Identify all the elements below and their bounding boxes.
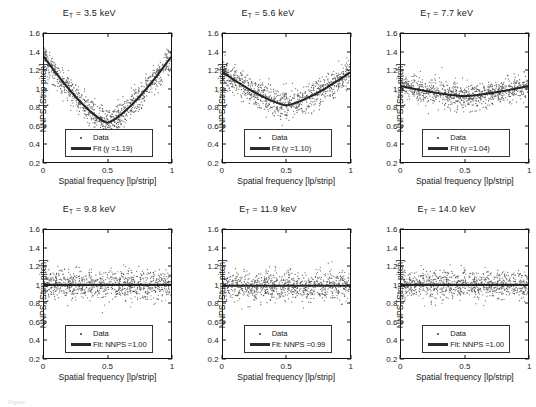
y-axis-tick-label: 1.4: [386, 243, 397, 252]
x-axis-tick-mark-top: [350, 33, 351, 37]
fit-line-icon: [71, 343, 91, 345]
y-axis-tick-mark-right: [347, 70, 351, 71]
panel-title-energy: = 5.6 keV: [254, 8, 294, 18]
y-axis-tick-mark: [400, 359, 404, 360]
y-axis-tick-mark-right: [347, 51, 351, 52]
legend-data-label: Data: [93, 133, 109, 142]
legend-data-label: Data: [93, 329, 109, 338]
y-axis-tick-label: 1.4: [208, 243, 219, 252]
y-axis-tick-mark-right: [347, 125, 351, 126]
legend-row-fit: Fit (γ =1.10): [248, 143, 328, 154]
y-axis-tick-mark-right: [168, 303, 172, 304]
legend-line-icon: [426, 147, 450, 149]
y-axis-tick-mark: [43, 340, 47, 341]
x-axis-tick-label: 1: [348, 362, 352, 371]
y-axis-tick-mark: [400, 229, 404, 230]
panel-title: ET = 7.7 keV: [357, 8, 536, 19]
y-axis-tick-mark-right: [168, 144, 172, 145]
y-axis-tick-mark-right: [347, 247, 351, 248]
fit-line-icon: [71, 147, 91, 149]
x-axis-tick-mark: [172, 159, 173, 163]
y-axis-tick-label: 1.6: [386, 29, 397, 38]
y-axis-tick-label: 1.4: [386, 47, 397, 56]
x-axis-tick-label: 0: [398, 362, 402, 371]
x-axis-tick-mark-top: [107, 229, 108, 233]
x-axis-tick-mark: [43, 159, 44, 163]
y-axis-tick-mark: [222, 247, 226, 248]
legend-row-fit: Fit: NNPS =0.99: [248, 339, 328, 350]
x-axis-tick-mark: [221, 159, 222, 163]
x-axis-tick-mark: [529, 355, 530, 359]
y-axis-tick-mark-right: [525, 88, 529, 89]
panel-title-subscript: T: [245, 208, 249, 215]
y-axis-tick-mark: [43, 229, 47, 230]
legend-row-data: Data: [69, 328, 149, 339]
y-axis-tick-label: 1.6: [386, 225, 397, 234]
x-axis-tick-mark-top: [107, 33, 108, 37]
figure-caption: Figure: [8, 399, 25, 405]
x-axis-tick-mark: [107, 159, 108, 163]
y-axis-label: NNPS [Strip pitch]: [217, 260, 227, 329]
x-axis-tick-mark: [350, 159, 351, 163]
y-axis-tick-mark: [222, 359, 226, 360]
plot-legend: DataFit (γ =1.10): [244, 129, 332, 157]
x-axis-label: Spatial frequency [lp/strip]: [59, 372, 157, 382]
x-axis-label: Spatial frequency [lp/strip]: [59, 176, 157, 186]
panel-title: ET = 5.6 keV: [179, 8, 358, 19]
y-axis-tick-mark: [400, 33, 404, 34]
legend-data-label: Data: [450, 329, 466, 338]
scatter-dot-icon: [259, 333, 261, 335]
fit-line-icon: [428, 147, 448, 149]
y-axis-tick-label: 0.2: [29, 159, 40, 168]
legend-marker-icon: [69, 333, 93, 335]
y-axis-label: NNPS [Strip pitch]: [38, 260, 48, 329]
legend-marker-icon: [69, 137, 93, 139]
y-axis-tick-mark-right: [525, 51, 529, 52]
x-axis-tick-label: 0: [219, 166, 223, 175]
x-axis-label: Spatial frequency [lp/strip]: [416, 176, 514, 186]
y-axis-tick-mark-right: [525, 144, 529, 145]
panel-grid: ET = 3.5 keV0.20.40.60.811.21.41.600.51S…: [0, 0, 536, 392]
scatter-dot-icon: [437, 137, 439, 139]
y-axis-tick-label: 1.6: [29, 29, 40, 38]
y-axis-tick-label: 0.2: [386, 355, 397, 364]
x-axis-tick-mark: [43, 355, 44, 359]
legend-data-label: Data: [272, 329, 288, 338]
y-axis-tick-mark: [222, 51, 226, 52]
y-axis-tick-mark: [43, 144, 47, 145]
legend-row-fit: Fit: NNPS =1.00: [69, 339, 149, 350]
y-axis-tick-mark-right: [347, 266, 351, 267]
x-axis-tick-label: 1: [170, 166, 174, 175]
legend-line-icon: [426, 343, 450, 345]
y-axis-tick-label: 0.4: [208, 140, 219, 149]
x-axis-tick-label: 0.5: [281, 166, 292, 175]
panel-title-subscript: T: [248, 12, 252, 19]
y-axis-tick-mark-right: [168, 88, 172, 89]
x-axis-tick-mark-top: [221, 33, 222, 37]
y-axis-tick-mark: [43, 359, 47, 360]
plot-panel-4: ET = 11.9 keV0.20.40.60.811.21.41.600.51…: [179, 196, 358, 392]
legend-line-icon: [248, 147, 272, 149]
legend-fit-label: Fit (γ =1.04): [450, 144, 489, 153]
x-axis-tick-mark-top: [400, 229, 401, 233]
y-axis-tick-label: 0.2: [29, 355, 40, 364]
y-axis-tick-mark-right: [168, 340, 172, 341]
x-axis-tick-mark: [172, 355, 173, 359]
x-axis-tick-mark-top: [43, 229, 44, 233]
x-axis-tick-label: 1: [527, 362, 531, 371]
legend-row-data: Data: [248, 132, 328, 143]
y-axis-tick-mark: [222, 340, 226, 341]
plot-legend: DataFit: NNPS =1.00: [65, 325, 153, 353]
legend-row-fit: Fit (γ =1.19): [69, 143, 149, 154]
x-axis-tick-mark: [464, 355, 465, 359]
x-axis-tick-mark-top: [172, 33, 173, 37]
legend-fit-label: Fit (γ =1.10): [272, 144, 311, 153]
x-axis-tick-label: 0.5: [459, 166, 470, 175]
legend-row-data: Data: [426, 132, 506, 143]
y-axis-tick-mark: [43, 247, 47, 248]
y-axis-tick-mark-right: [525, 321, 529, 322]
legend-data-label: Data: [272, 133, 288, 142]
legend-fit-label: Fit: NNPS =1.00: [450, 340, 504, 349]
fit-line-icon: [250, 343, 270, 345]
x-axis-tick-mark: [286, 159, 287, 163]
